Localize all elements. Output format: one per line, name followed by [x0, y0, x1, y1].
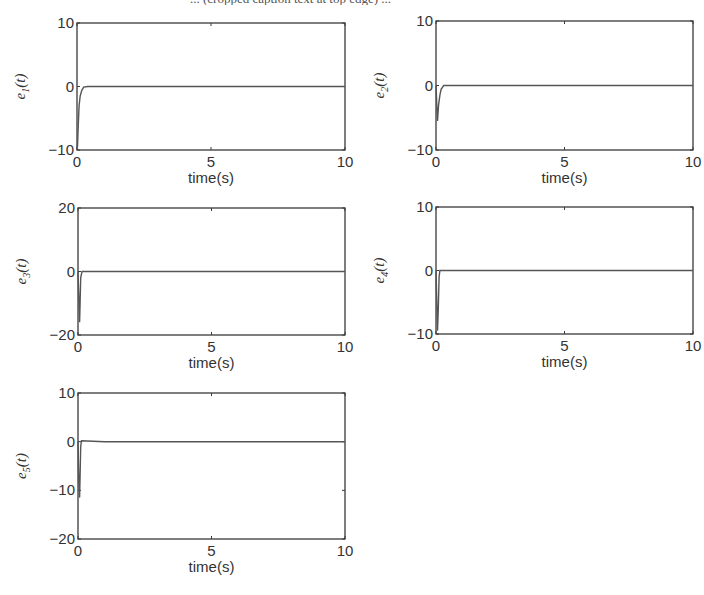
y-axis-label: e5(t) [13, 453, 32, 479]
y-tick-label: 10 [58, 384, 75, 401]
y-tick-label: −10 [50, 481, 75, 498]
axes-box [78, 393, 345, 539]
x-axis-label: time(s) [189, 558, 235, 575]
x-tick-label: 0 [74, 542, 82, 559]
data-line-e5 [78, 441, 345, 498]
subplot-canvas: 0510−20−10010time(s)e5(t) [0, 0, 704, 595]
y-tick-label: −20 [50, 530, 75, 547]
y-tick-label: 0 [67, 433, 75, 450]
x-tick-label: 10 [337, 542, 354, 559]
x-tick-label: 5 [207, 542, 215, 559]
